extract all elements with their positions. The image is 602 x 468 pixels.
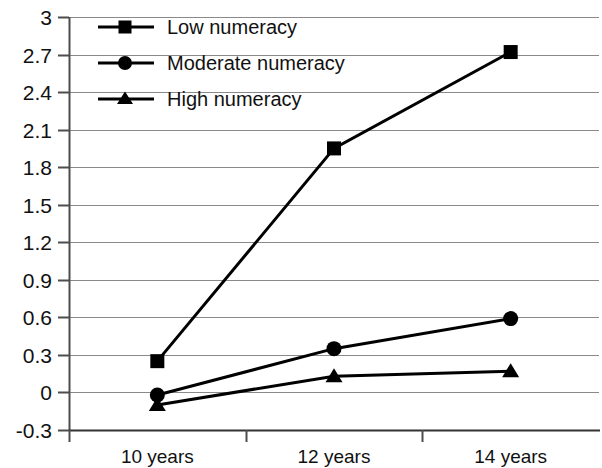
series-line — [157, 319, 510, 395]
legend-marker-circle-icon — [96, 53, 156, 73]
data-point-marker — [150, 354, 164, 368]
y-axis-tick-label: 0 — [0, 382, 52, 403]
x-axis-tick-label: 14 years — [422, 447, 599, 466]
legend-marker-triangle-icon — [96, 89, 156, 109]
data-point-marker — [503, 311, 518, 326]
legend-label-high-numeracy: High numeracy — [167, 89, 302, 109]
chart-legend: Low numeracy Moderate numeracy High nume… — [96, 14, 345, 111]
legend-item-low-numeracy: Low numeracy — [96, 14, 345, 39]
y-axis-tick-label: 0.9 — [0, 270, 52, 291]
legend-marker-square-icon — [96, 17, 156, 37]
y-axis-tick-label: 0.3 — [0, 345, 52, 366]
y-axis-tick-label: 2.1 — [0, 120, 52, 141]
y-axis-tick-label: 0.6 — [0, 307, 52, 328]
line-chart: 32.72.42.11.81.51.20.90.60.30-0.3 10 yea… — [0, 0, 602, 468]
y-axis-tick-label: 1.2 — [0, 232, 52, 253]
y-axis-tick-label: 1.5 — [0, 195, 52, 216]
y-axis-tick-label: 1.8 — [0, 157, 52, 178]
data-point-marker — [327, 141, 341, 155]
data-point-marker — [504, 45, 518, 59]
x-axis-ticks — [70, 430, 423, 442]
x-axis-tick-label: 12 years — [246, 447, 423, 466]
legend-item-high-numeracy: High numeracy — [96, 86, 345, 111]
x-axis-tick-label: 10 years — [69, 447, 246, 466]
legend-label-low-numeracy: Low numeracy — [167, 17, 297, 37]
y-axis-tick-label: 2.4 — [0, 82, 52, 103]
data-point-marker — [327, 341, 342, 356]
y-axis-ticks — [58, 18, 69, 431]
y-axis-tick-label: 2.7 — [0, 45, 52, 66]
legend-label-moderate-numeracy: Moderate numeracy — [167, 53, 345, 73]
legend-item-moderate-numeracy: Moderate numeracy — [96, 50, 345, 75]
y-axis-tick-label: -0.3 — [0, 420, 52, 441]
y-axis-tick-label: 3 — [0, 7, 52, 28]
